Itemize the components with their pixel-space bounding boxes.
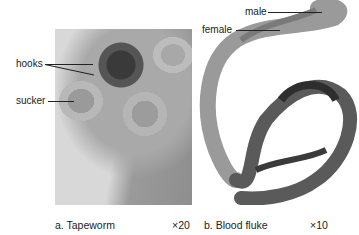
magnification-tapeworm: ×20 bbox=[172, 219, 190, 231]
caption-blood-fluke: b. Blood fluke bbox=[204, 219, 268, 231]
male-label: male bbox=[245, 6, 267, 18]
magnification-blood-fluke: ×10 bbox=[310, 219, 328, 231]
sucker-leader-line bbox=[48, 101, 74, 102]
female-leader-line bbox=[236, 30, 280, 31]
hooks-label: hooks bbox=[16, 58, 43, 70]
tapeworm-photo bbox=[55, 29, 192, 205]
female-label: female bbox=[202, 24, 232, 36]
caption-tapeworm: a. Tapeworm bbox=[55, 219, 115, 231]
sucker-label: sucker bbox=[16, 95, 45, 107]
male-leader-line bbox=[268, 12, 322, 13]
